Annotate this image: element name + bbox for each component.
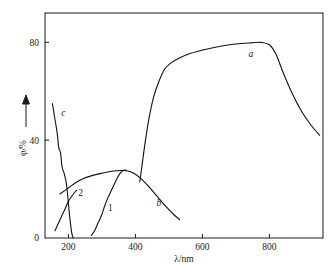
x-tick-label: 400 bbox=[128, 242, 143, 252]
x-tick-label: 800 bbox=[262, 242, 277, 252]
curve-label-a: a bbox=[249, 49, 254, 59]
x-axis-ticks bbox=[68, 234, 269, 238]
y-axis-arrow-icon bbox=[23, 95, 30, 127]
curve-2 bbox=[55, 190, 76, 230]
data-curves bbox=[52, 42, 319, 238]
curve-a bbox=[140, 42, 320, 182]
curve-label-2: 2 bbox=[78, 188, 83, 198]
y-axis-label: φ/% bbox=[18, 140, 28, 156]
curve-c bbox=[52, 103, 73, 238]
x-axis-label: λ/nm bbox=[174, 254, 194, 264]
x-axis-tick-labels: 200400600800 bbox=[61, 242, 276, 252]
y-tick-label: 0 bbox=[34, 233, 39, 243]
curve-label-b: b bbox=[157, 198, 162, 208]
curve-labels: abc12 bbox=[61, 49, 253, 213]
line-chart: 200400600800 04080 abc12 φ/% λ/nm bbox=[0, 0, 335, 275]
chart-figure: 200400600800 04080 abc12 φ/% λ/nm bbox=[0, 0, 335, 275]
y-axis-ticks bbox=[45, 42, 49, 140]
y-tick-label: 40 bbox=[30, 136, 40, 146]
x-tick-label: 600 bbox=[195, 242, 210, 252]
curve-label-c: c bbox=[61, 108, 66, 118]
y-axis-tick-labels: 04080 bbox=[30, 38, 40, 244]
curve-label-1: 1 bbox=[108, 203, 113, 213]
plot-frame bbox=[45, 13, 323, 238]
x-tick-label: 200 bbox=[61, 242, 76, 252]
y-tick-label: 80 bbox=[30, 38, 40, 48]
